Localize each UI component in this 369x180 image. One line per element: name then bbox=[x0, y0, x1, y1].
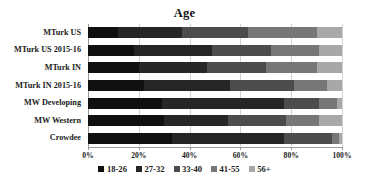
legend-entry[interactable]: 18-26 bbox=[98, 164, 127, 174]
bar-segment-18-26 bbox=[88, 115, 164, 126]
bar-segment-33-40 bbox=[284, 133, 332, 144]
bar-row bbox=[88, 62, 342, 73]
bar-segment-27-32 bbox=[162, 98, 284, 109]
bar-row bbox=[88, 115, 342, 126]
bar-segment-41-55 bbox=[266, 62, 317, 73]
bar-segment-27-32 bbox=[118, 27, 182, 38]
bar-segment-56+ bbox=[339, 133, 342, 144]
bar-segment-33-40 bbox=[182, 27, 248, 38]
bar-row bbox=[88, 133, 342, 144]
legend-entry[interactable]: 56+ bbox=[249, 164, 271, 174]
bar-segment-56+ bbox=[337, 98, 342, 109]
legend-swatch-icon bbox=[98, 166, 104, 172]
bar-segment-41-55 bbox=[271, 45, 319, 56]
legend-entry[interactable]: 27-32 bbox=[136, 164, 165, 174]
x-tick-label: 20% bbox=[131, 151, 146, 160]
legend-label: 33-40 bbox=[182, 164, 202, 174]
x-tick-mark bbox=[240, 147, 241, 150]
y-axis-label: MTurk IN bbox=[45, 63, 81, 72]
y-axis-label: Crowdee bbox=[50, 133, 81, 142]
bar-row bbox=[88, 98, 342, 109]
bar-segment-41-55 bbox=[248, 27, 317, 38]
bar-segment-33-40 bbox=[284, 98, 320, 109]
legend-entry[interactable]: 41-55 bbox=[211, 164, 240, 174]
chart-title: Age bbox=[0, 6, 369, 21]
bar-segment-18-26 bbox=[88, 62, 139, 73]
x-tick-mark bbox=[342, 147, 343, 150]
bar-segment-27-32 bbox=[164, 115, 228, 126]
bar-segment-27-32 bbox=[172, 133, 284, 144]
legend-label: 41-55 bbox=[220, 164, 240, 174]
plot-area bbox=[88, 24, 342, 147]
bar-segment-18-26 bbox=[88, 80, 144, 91]
legend-label: 56+ bbox=[257, 164, 271, 174]
bar-row bbox=[88, 27, 342, 38]
bar-segment-33-40 bbox=[207, 62, 265, 73]
bars-layer bbox=[88, 24, 342, 147]
bar-segment-18-26 bbox=[88, 133, 172, 144]
x-tick-mark bbox=[190, 147, 191, 150]
legend-swatch-icon bbox=[174, 166, 180, 172]
legend-swatch-icon bbox=[136, 166, 142, 172]
legend-swatch-icon bbox=[211, 166, 217, 172]
age-stacked-bar-chart: Age MTurk USMTurk US 2015-16MTurk INMTur… bbox=[0, 0, 369, 180]
bar-segment-33-40 bbox=[228, 115, 286, 126]
bar-segment-33-40 bbox=[212, 45, 270, 56]
y-axis-label: MW Developing bbox=[24, 98, 81, 107]
legend-swatch-icon bbox=[249, 166, 255, 172]
x-tick-mark bbox=[139, 147, 140, 150]
bar-row bbox=[88, 45, 342, 56]
x-axis-line bbox=[88, 147, 343, 148]
bar-segment-41-55 bbox=[319, 98, 337, 109]
x-tick-mark bbox=[291, 147, 292, 150]
x-tick-label: 60% bbox=[233, 151, 248, 160]
bar-segment-56+ bbox=[327, 80, 342, 91]
legend-entry[interactable]: 33-40 bbox=[174, 164, 203, 174]
bar-segment-56+ bbox=[319, 45, 342, 56]
bar-segment-41-55 bbox=[332, 133, 340, 144]
y-axis-label: MTurk IN 2015-16 bbox=[15, 81, 81, 90]
y-axis-label: MTurk US bbox=[43, 28, 81, 37]
bar-segment-41-55 bbox=[286, 115, 319, 126]
y-axis-category-labels: MTurk USMTurk US 2015-16MTurk INMTurk IN… bbox=[0, 24, 85, 147]
x-tick-label: 100% bbox=[333, 151, 352, 160]
bar-segment-27-32 bbox=[139, 62, 208, 73]
y-axis-label: MW Western bbox=[34, 116, 81, 125]
legend-label: 27-32 bbox=[144, 164, 164, 174]
bar-segment-41-55 bbox=[294, 80, 327, 91]
x-tick-mark bbox=[88, 147, 89, 150]
chart-legend: 18-2627-3233-4041-5556+ bbox=[0, 164, 369, 174]
bar-segment-33-40 bbox=[230, 80, 294, 91]
bar-segment-56+ bbox=[317, 62, 342, 73]
bar-segment-56+ bbox=[319, 115, 342, 126]
bar-segment-27-32 bbox=[134, 45, 213, 56]
bar-row bbox=[88, 80, 342, 91]
bar-segment-56+ bbox=[317, 27, 342, 38]
y-axis-label: MTurk US 2015-16 bbox=[14, 45, 81, 54]
x-tick-label: 40% bbox=[182, 151, 197, 160]
legend-label: 18-26 bbox=[107, 164, 127, 174]
x-tick-label: 0% bbox=[82, 151, 93, 160]
bar-segment-27-32 bbox=[144, 80, 230, 91]
bar-segment-18-26 bbox=[88, 27, 118, 38]
bar-segment-18-26 bbox=[88, 45, 134, 56]
bar-segment-18-26 bbox=[88, 98, 162, 109]
x-tick-label: 80% bbox=[284, 151, 299, 160]
gridline-100pct bbox=[342, 24, 343, 147]
